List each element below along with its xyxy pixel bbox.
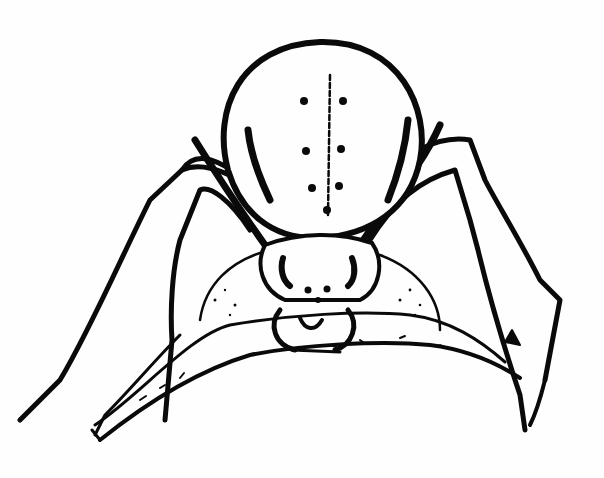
cephalothorax (261, 235, 380, 352)
legs-left (20, 140, 265, 435)
abdomen (224, 42, 422, 238)
spider-illustration (0, 0, 604, 478)
illustration-canvas: Ink illustration of a spider perched on … (0, 0, 604, 478)
twig (92, 313, 520, 440)
